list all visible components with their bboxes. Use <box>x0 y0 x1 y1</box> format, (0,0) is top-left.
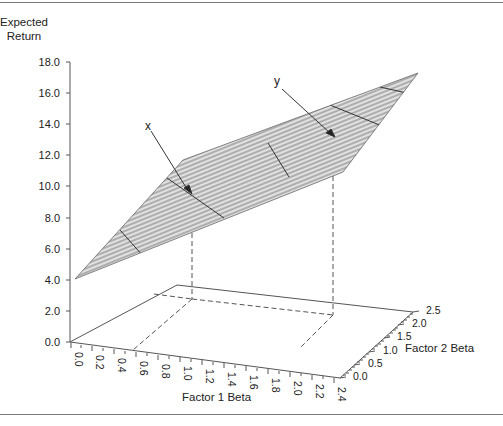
z-axis-title-line1: Expected <box>0 16 48 28</box>
z-tick: 10.0 <box>39 180 60 192</box>
x-tick: 0.6 <box>138 361 150 376</box>
x-tick: 1.4 <box>226 372 238 387</box>
x-tick: 1.0 <box>182 366 194 381</box>
z-tick: 0.0 <box>45 336 60 348</box>
z-tick: 14.0 <box>39 118 60 130</box>
floor-outline <box>70 285 413 342</box>
z-tick: 12.0 <box>39 149 60 161</box>
x-tick: 2.2 <box>314 384 326 399</box>
z-tick: 18.0 <box>39 56 60 68</box>
point-x-label: x <box>145 119 151 133</box>
y-tick: 1.5 <box>397 330 412 342</box>
z-tick: 4.0 <box>45 274 60 286</box>
z-axis-title-line2: Return <box>7 30 42 42</box>
x-tick: 1.2 <box>204 369 216 384</box>
z-tick: 8.0 <box>45 212 60 224</box>
return-plane <box>75 73 420 279</box>
factor1-axis-title: Factor 1 Beta <box>182 391 252 403</box>
x-tick: 0.4 <box>116 358 128 373</box>
y-tick: 0.5 <box>368 357 383 369</box>
point-y-label: y <box>274 74 280 88</box>
z-tick: 16.0 <box>39 87 60 99</box>
x-tick: 1.8 <box>270 378 282 393</box>
3d-plane-chart: Expected Return 18.0 16.0 14.0 12.0 10.0… <box>0 0 503 426</box>
y-tick: 2.5 <box>426 304 441 316</box>
factor2-axis-title: Factor 2 Beta <box>405 342 475 354</box>
x-tick: 2.0 <box>292 381 304 396</box>
z-tick: 6.0 <box>45 243 60 255</box>
y-tick: 1.0 <box>383 344 398 356</box>
x-tick: 0.2 <box>94 355 106 370</box>
z-axis <box>66 62 70 342</box>
x-tick: 0.0 <box>73 352 85 367</box>
x-tick: 0.8 <box>160 364 172 379</box>
z-axis-ticks: 18.0 16.0 14.0 12.0 10.0 8.0 6.0 4.0 2.0… <box>39 56 60 348</box>
y-tick: 2.0 <box>412 317 427 329</box>
y-tick: 0.0 <box>353 370 368 382</box>
z-tick: 2.0 <box>45 305 60 317</box>
x-tick: 2.4 <box>336 387 348 402</box>
x-tick: 1.6 <box>248 375 260 390</box>
